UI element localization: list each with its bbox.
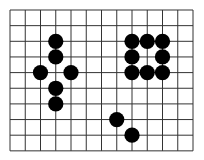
black-stone[interactable]	[124, 128, 139, 143]
black-stone[interactable]	[48, 49, 63, 64]
black-stone[interactable]	[155, 49, 170, 64]
black-stone[interactable]	[48, 96, 63, 111]
black-stone[interactable]	[124, 49, 139, 64]
black-stone[interactable]	[155, 34, 170, 49]
black-stone[interactable]	[124, 34, 139, 49]
black-stone[interactable]	[155, 65, 170, 80]
black-stone[interactable]	[48, 34, 63, 49]
black-stone[interactable]	[140, 65, 155, 80]
game-board[interactable]	[0, 0, 204, 160]
grid-lines	[10, 10, 193, 151]
black-stone[interactable]	[124, 65, 139, 80]
black-stone[interactable]	[63, 65, 78, 80]
black-stone[interactable]	[140, 34, 155, 49]
black-stone[interactable]	[33, 65, 48, 80]
black-stone[interactable]	[48, 81, 63, 96]
black-stone[interactable]	[109, 112, 124, 127]
